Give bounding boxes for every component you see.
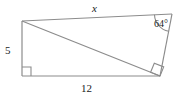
left-side-label: 5 xyxy=(5,45,11,56)
geometry-diagram-svg xyxy=(0,0,185,98)
right-angle-marker-bottom-left xyxy=(22,67,31,76)
angle-label: 64° xyxy=(154,19,168,29)
top-side-line xyxy=(22,14,172,21)
diagonal-line xyxy=(22,21,160,76)
top-side-label: x xyxy=(92,3,97,14)
geometry-figure: x 5 12 64° xyxy=(0,0,185,98)
bottom-side-label: 12 xyxy=(81,83,92,94)
